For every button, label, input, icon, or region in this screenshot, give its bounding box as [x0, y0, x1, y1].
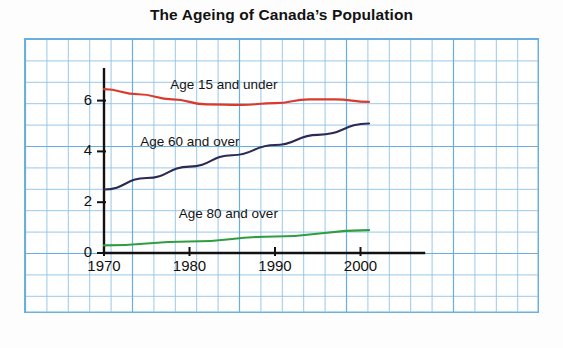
series-lines — [104, 89, 369, 245]
chart-figure: The Ageing of Canada’s Population Number… — [0, 0, 563, 348]
x-tick-label: 2000 — [326, 257, 396, 274]
axis-ticks — [98, 101, 361, 255]
series-line — [104, 230, 369, 245]
x-tick-label: 1970 — [69, 257, 139, 274]
x-tick-label: 1990 — [240, 257, 310, 274]
chart-title: The Ageing of Canada’s Population — [0, 6, 563, 24]
y-tick-label: 4 — [70, 141, 92, 158]
series-label: Age 80 and over — [179, 206, 278, 221]
series-label: Age 60 and over — [140, 134, 239, 149]
plot-area: 02461970198019902000 Age 15 and underAge… — [24, 38, 539, 313]
y-tick-label: 2 — [70, 192, 92, 209]
y-tick-label: 6 — [70, 91, 92, 108]
series-label: Age 15 and under — [170, 77, 277, 92]
x-tick-label: 1980 — [155, 257, 225, 274]
